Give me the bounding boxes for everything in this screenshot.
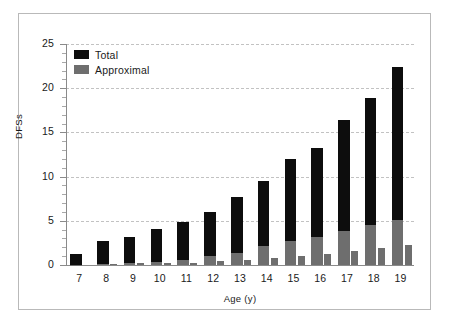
bar-total (177, 222, 189, 265)
x-axis-line (66, 265, 414, 266)
bar-approximal-adjacent (110, 264, 117, 265)
y-axis-label: DFSs (13, 114, 24, 139)
x-tick-label: 18 (360, 272, 387, 284)
bar-approximal-base (204, 256, 216, 265)
x-tick-label: 12 (200, 272, 227, 284)
legend-swatch-approximal-icon (74, 65, 89, 75)
bar-approximal-adjacent (351, 251, 358, 265)
bar-approximal-adjacent (378, 248, 385, 265)
bar-total (70, 254, 82, 265)
bar-total (97, 241, 109, 265)
legend-swatch-total-icon (74, 50, 89, 60)
bar-total (151, 229, 163, 265)
bar-approximal-adjacent (298, 256, 305, 265)
y-tick-label: 0 (20, 258, 54, 270)
bar-approximal-base (365, 225, 377, 265)
bar-approximal-adjacent (190, 263, 197, 265)
chart-legend: Total Approximal (74, 48, 184, 78)
bar-approximal-base (338, 231, 350, 265)
bar-approximal-base (392, 220, 404, 265)
bar-approximal-base (70, 265, 82, 266)
x-tick-label: 17 (334, 272, 361, 284)
bar-approximal-adjacent (271, 258, 278, 265)
bar-approximal-adjacent (244, 260, 251, 265)
x-tick-label: 7 (66, 272, 93, 284)
bar-approximal-adjacent (217, 261, 224, 265)
x-tick-label: 16 (307, 272, 334, 284)
bar-approximal-base (231, 253, 243, 265)
y-tick-label: 20 (20, 81, 54, 93)
legend-label-approximal: Approximal (95, 64, 150, 76)
x-tick-label: 9 (120, 272, 147, 284)
bar-approximal-adjacent (137, 263, 144, 265)
x-tick-label: 10 (146, 272, 173, 284)
legend-item-total: Total (74, 48, 184, 61)
x-axis-label: Age (y) (66, 293, 414, 304)
bar-approximal-base (258, 246, 270, 265)
bar-approximal-base (124, 263, 136, 265)
legend-item-approximal: Approximal (74, 63, 184, 76)
x-tick-label: 19 (387, 272, 414, 284)
y-tick-label: 25 (20, 37, 54, 49)
bar-approximal-base (151, 262, 163, 265)
bar-approximal-adjacent (405, 245, 412, 265)
y-tick-label: 15 (20, 125, 54, 137)
bar-total (124, 237, 136, 265)
bar-approximal-adjacent (164, 263, 171, 265)
bar-approximal-base (177, 260, 189, 265)
x-tick-label: 14 (253, 272, 280, 284)
bar-approximal-adjacent (324, 254, 331, 265)
bar-approximal-base (311, 237, 323, 265)
bar-approximal-base (97, 264, 109, 265)
x-tick-label: 15 (280, 272, 307, 284)
legend-label-total: Total (95, 49, 118, 61)
x-tick-label: 13 (227, 272, 254, 284)
chart-figure: 0510152025 78910111213141516171819 DFSs … (0, 0, 449, 327)
x-tick-label: 11 (173, 272, 200, 284)
x-tick-label: 8 (93, 272, 120, 284)
y-tick-label: 10 (20, 170, 54, 182)
bar-approximal-base (285, 241, 297, 265)
y-tick-label: 5 (20, 214, 54, 226)
